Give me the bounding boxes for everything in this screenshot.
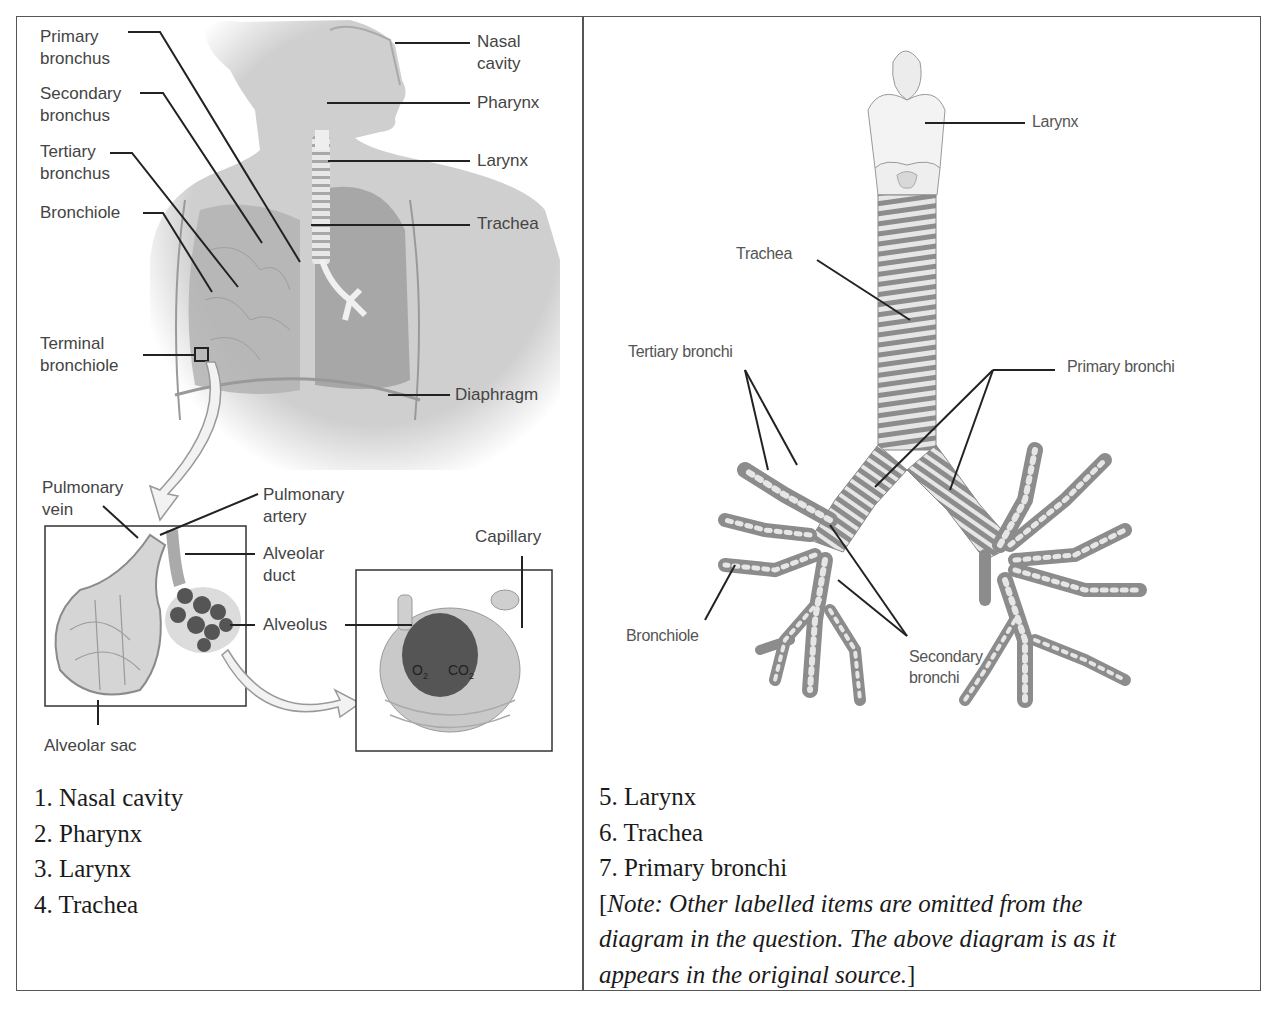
label-pulmonary-artery: Pulmonary artery [263,484,344,528]
list-item: 1. Nasal cavity [34,780,183,816]
co2-text: CO [448,662,469,678]
label-pharynx: Pharynx [477,92,539,114]
note-line-3-wrap: appears in the original source.] [599,957,1116,993]
co2-subscript: 2 [469,671,474,681]
label-alveolar-duct: Alveolar duct [263,543,324,587]
label-capillary: Capillary [475,526,541,548]
label-tertiary-bronchi: Tertiary bronchi [628,343,733,361]
list-item: 7. Primary bronchi [599,850,1116,886]
label-pulmonary-vein: Pulmonary vein [42,477,123,521]
label-nasal-cavity: Nasal cavity [477,31,520,75]
note-bracket-close: ] [907,961,915,988]
label-trachea: Trachea [477,213,539,235]
note-line-1: Note: Other labelled items are omitted f… [607,890,1082,917]
label-tertiary-bronchus: Tertiary bronchus [40,141,110,185]
label-bronchiole: Bronchiole [40,202,120,224]
label-alveolus: Alveolus [263,614,327,636]
label-alveolar-sac: Alveolar sac [44,735,137,757]
bronchial-tree-figure: Larynx Trachea Tertiary bronchi Primary … [585,0,1270,780]
note: [Note: Other labelled items are omitted … [599,886,1116,922]
label-secondary-bronchi: Secondary bronchi [909,646,983,688]
list-item: 5. Larynx [599,779,1116,815]
label-trachea-right: Trachea [736,245,792,263]
note-line-3: appears in the original source. [599,961,907,988]
left-answer-list: 1. Nasal cavity 2. Pharynx 3. Larynx 4. … [34,780,183,922]
list-item: 2. Pharynx [34,816,183,852]
o2-text: O [412,662,423,678]
o2-subscript: 2 [423,671,428,681]
right-answer-list: 5. Larynx 6. Trachea 7. Primary bronchi … [599,779,1116,992]
label-larynx: Larynx [477,150,528,172]
note-line-2: diagram in the question. The above diagr… [599,921,1116,957]
label-bronchiole-right: Bronchiole [626,627,699,645]
list-item: 4. Trachea [34,887,183,923]
label-secondary-bronchus: Secondary bronchus [40,83,121,127]
list-item: 6. Trachea [599,815,1116,851]
respiratory-system-figure: Primary bronchus Secondary bronchus Tert… [0,0,585,780]
label-terminal-bronchiole: Terminal bronchiole [40,333,118,377]
list-item: 3. Larynx [34,851,183,887]
label-diaphragm: Diaphragm [455,384,538,406]
label-co2: CO2 [448,637,474,687]
label-o2: O2 [412,637,428,687]
label-primary-bronchus: Primary bronchus [40,26,110,70]
label-primary-bronchi: Primary bronchi [1067,358,1175,376]
label-larynx-right: Larynx [1032,113,1078,131]
